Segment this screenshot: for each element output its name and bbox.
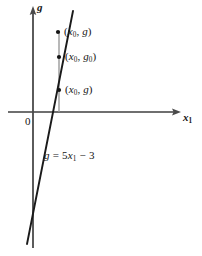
line-g-equals-5x1-minus-3 <box>27 11 73 244</box>
data-point-upper <box>56 30 60 34</box>
figure-canvas: g x1 0 (x0, g) (x0, g0) (x0, g) g = 5x1 … <box>0 0 202 256</box>
data-point-middle <box>57 55 61 59</box>
x-axis <box>8 109 181 116</box>
point-label-middle: (x0, g0) <box>65 51 96 62</box>
plot-area <box>0 0 202 256</box>
origin-label: 0 <box>25 116 31 127</box>
y-axis-label: g <box>37 2 43 13</box>
data-point-lower <box>57 88 61 92</box>
point-label-lower: (x0, g) <box>65 84 93 95</box>
equation-annotation: g = 5x1 − 3 <box>44 150 95 161</box>
x-axis-label: x1 <box>183 112 192 123</box>
point-label-upper: (x0, g) <box>64 26 92 37</box>
